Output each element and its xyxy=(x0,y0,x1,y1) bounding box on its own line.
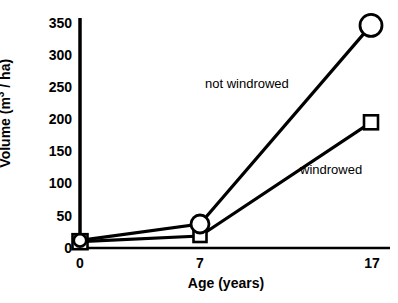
y-axis-title-prefix: Volume (m xyxy=(0,97,13,168)
x-axis-title: Age (years) xyxy=(188,276,264,290)
annotation-not-windrowed: not windrowed xyxy=(205,77,289,90)
y-tick-label-300: 300 xyxy=(28,48,72,62)
y-tick-label-200: 200 xyxy=(28,112,72,126)
series-line-windrowed xyxy=(80,122,371,241)
annotation-windrowed: windrowed xyxy=(300,163,362,176)
x-tick-label-17: 17 xyxy=(364,256,380,270)
marker-not-windrowed-17 xyxy=(360,14,382,36)
y-tick-label-50: 50 xyxy=(28,209,72,223)
chart-figure: 350 300 250 200 150 100 50 0 0 7 17 Volu… xyxy=(0,0,398,303)
marker-windrowed-17 xyxy=(364,115,378,129)
y-axis-title-superscript: 3 xyxy=(0,91,6,97)
y-tick-label-100: 100 xyxy=(28,176,72,190)
y-tick-label-150: 150 xyxy=(28,144,72,158)
y-axis-title-suffix: / ha) xyxy=(0,58,13,91)
y-axis-title: Volume (m3 / ha) xyxy=(0,58,12,167)
series-line-not-windrowed xyxy=(80,25,371,240)
x-tick-label-0: 0 xyxy=(76,256,84,270)
y-tick-label-0: 0 xyxy=(28,241,72,255)
marker-not-windrowed-0 xyxy=(74,234,86,246)
x-tick-label-7: 7 xyxy=(196,256,204,270)
y-tick-label-350: 350 xyxy=(28,16,72,30)
y-tick-label-250: 250 xyxy=(28,80,72,94)
marker-not-windrowed-7 xyxy=(191,215,209,233)
